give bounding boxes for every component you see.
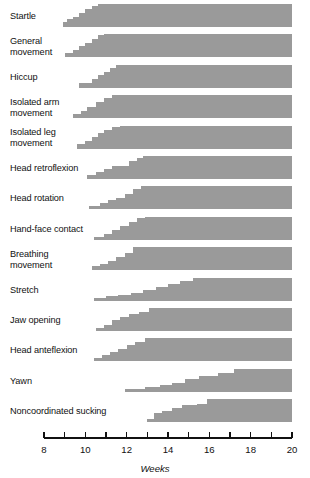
chart-row: Startle (0, 4, 310, 27)
bar-area-noncoordinated-sucking (0, 399, 310, 422)
bar-area-general-movement (0, 34, 310, 57)
bar-wrap (0, 338, 310, 362)
bar-area-head-retroflexion (0, 156, 310, 179)
bar-wrap (0, 399, 310, 423)
bar-area-isolated-leg-movement (0, 126, 310, 149)
bar-wrap (0, 95, 310, 119)
bar-wrap (0, 4, 310, 28)
bar-wrap (0, 156, 310, 180)
bar-wrap (0, 247, 310, 271)
bar-area-head-anteflexion (0, 338, 310, 361)
chart-row: Head anteflexion (0, 338, 310, 361)
chart-row: Jaw opening (0, 308, 310, 331)
bar-area-hiccup (0, 65, 310, 88)
bar-area-isolated-arm-movement (0, 95, 310, 118)
chart-row: Hand-face contact (0, 217, 310, 240)
x-tick-label: 12 (121, 444, 132, 455)
bar-wrap (0, 34, 310, 58)
x-tick-label: 14 (163, 444, 174, 455)
bar-area-breathing-movement (0, 247, 310, 270)
x-axis-svg: 8101214161820 (0, 430, 310, 464)
chart-row: Head rotation (0, 186, 310, 209)
bar-area-hand-face-contact (0, 217, 310, 240)
x-axis-title: Weeks (0, 463, 310, 474)
chart-row: Yawn (0, 369, 310, 392)
x-tick-label: 8 (41, 444, 46, 455)
x-tick-label: 10 (80, 444, 91, 455)
bar-wrap (0, 369, 310, 393)
bar-wrap (0, 126, 310, 150)
chart-row: Head retroflexion (0, 156, 310, 179)
chart-row: Isolated leg movement (0, 126, 310, 149)
chart-row: Hiccup (0, 65, 310, 88)
bar-area-jaw-opening (0, 308, 310, 331)
chart-row: Noncoordinated sucking (0, 399, 310, 422)
bar-wrap (0, 186, 310, 210)
chart-row: General movement (0, 34, 310, 57)
bar-wrap (0, 217, 310, 241)
x-tick-label: 16 (204, 444, 215, 455)
x-tick-label: 20 (287, 444, 298, 455)
chart-row: Stretch (0, 278, 310, 301)
bar-area-head-rotation (0, 186, 310, 209)
bar-wrap (0, 65, 310, 89)
bar-area-stretch (0, 278, 310, 301)
bar-wrap (0, 308, 310, 332)
x-tick-label: 18 (245, 444, 256, 455)
chart-row: Isolated arm movement (0, 95, 310, 118)
chart-row: Breathing movement (0, 247, 310, 270)
fetal-movement-onset-chart: StartleGeneral movementHiccupIsolated ar… (0, 0, 310, 478)
chart-rows-area: StartleGeneral movementHiccupIsolated ar… (0, 0, 310, 430)
bar-wrap (0, 278, 310, 302)
bar-area-yawn (0, 369, 310, 392)
bar-area-startle (0, 4, 310, 27)
